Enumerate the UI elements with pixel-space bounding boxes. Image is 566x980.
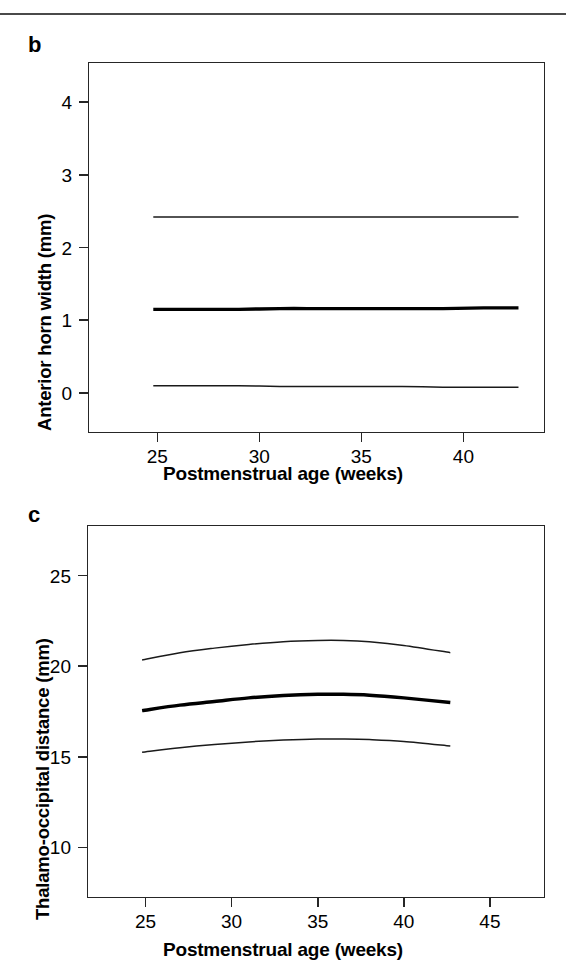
y-tick-mark bbox=[78, 575, 87, 577]
x-tick-mark bbox=[361, 433, 363, 442]
y-tick-label: 4 bbox=[22, 93, 72, 112]
x-tick-mark bbox=[231, 898, 233, 907]
x-tick-label: 30 bbox=[221, 912, 242, 931]
y-tick-label: 1 bbox=[22, 311, 72, 330]
x-tick-mark bbox=[403, 898, 405, 907]
series-curve-b-2 bbox=[153, 386, 518, 388]
y-tick-label: 10 bbox=[21, 838, 71, 857]
panel-b: b Anterior horn width (mm) 0123425303540… bbox=[0, 26, 566, 490]
y-tick-label: 2 bbox=[22, 238, 72, 257]
y-tick-mark bbox=[79, 319, 88, 321]
series-curve-b-1 bbox=[153, 308, 518, 310]
y-tick-label: 15 bbox=[21, 747, 71, 766]
y-tick-mark bbox=[79, 392, 88, 394]
x-tick-mark bbox=[259, 433, 261, 442]
y-tick-label: 0 bbox=[22, 383, 72, 402]
figure-container: b Anterior horn width (mm) 0123425303540… bbox=[0, 0, 566, 980]
x-tick-mark bbox=[489, 898, 491, 907]
x-tick-label: 45 bbox=[479, 912, 500, 931]
y-tick-mark bbox=[78, 665, 87, 667]
y-tick-label: 25 bbox=[21, 566, 71, 585]
y-tick-mark bbox=[79, 101, 88, 103]
y-tick-label: 20 bbox=[21, 657, 71, 676]
x-tick-mark bbox=[463, 433, 465, 442]
y-tick-label: 3 bbox=[22, 165, 72, 184]
series-curve-c-2 bbox=[142, 739, 450, 752]
x-tick-label: 35 bbox=[307, 912, 328, 931]
x-tick-mark bbox=[157, 433, 159, 442]
y-tick-mark bbox=[78, 847, 87, 849]
panel-c-series-layer bbox=[0, 490, 566, 980]
top-divider-rule bbox=[0, 13, 566, 15]
series-curve-c-0 bbox=[142, 640, 450, 660]
panel-b-x-axis-label: Postmenstrual age (weeks) bbox=[0, 463, 566, 485]
panel-c-x-axis-label: Postmenstrual age (weeks) bbox=[0, 939, 566, 961]
y-tick-mark bbox=[79, 174, 88, 176]
panel-c: c Thalamo-occipital distance (mm) 101520… bbox=[0, 490, 566, 980]
y-tick-mark bbox=[79, 247, 88, 249]
x-tick-mark bbox=[145, 898, 147, 907]
y-tick-mark bbox=[78, 756, 87, 758]
x-tick-label: 40 bbox=[393, 912, 414, 931]
series-curve-c-1 bbox=[142, 694, 450, 710]
x-tick-label: 25 bbox=[135, 912, 156, 931]
panel-b-series-layer bbox=[0, 26, 566, 490]
x-tick-mark bbox=[317, 898, 319, 907]
